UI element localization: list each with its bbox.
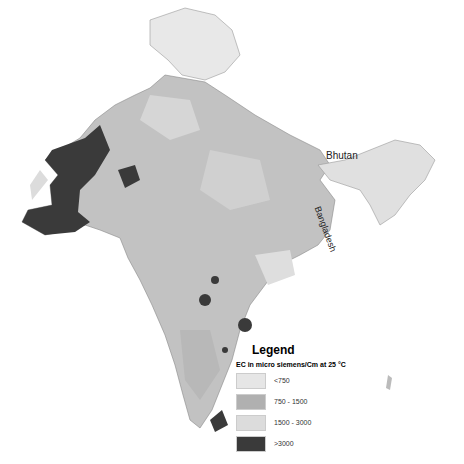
legend-item: >3000 xyxy=(236,435,366,452)
bhutan-label: Bhutan xyxy=(326,150,358,161)
legend: Legend EC in micro siemens/Cm at 25 °C <… xyxy=(236,343,366,452)
legend-swatch xyxy=(236,373,266,389)
legend-swatch xyxy=(236,394,266,410)
legend-subtitle: EC in micro siemens/Cm at 25 °C xyxy=(236,361,366,368)
legend-title: Legend xyxy=(252,343,366,357)
legend-item: <750 xyxy=(236,372,366,389)
legend-item: 750 - 1500 xyxy=(236,393,366,410)
legend-swatch xyxy=(236,415,266,431)
legend-swatch xyxy=(236,436,266,452)
region-north xyxy=(150,8,240,80)
india-map xyxy=(0,0,464,464)
legend-item: 1500 - 3000 xyxy=(236,414,366,431)
